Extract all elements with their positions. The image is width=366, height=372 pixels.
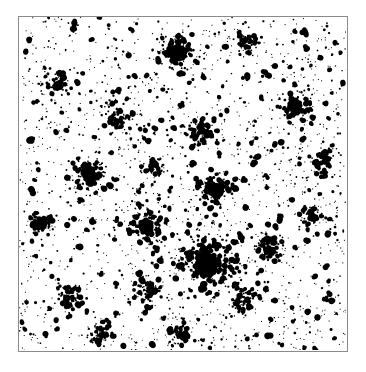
- point-pattern-canvas: [19, 17, 346, 350]
- plot-frame: [18, 16, 348, 352]
- figure-root: [0, 0, 366, 372]
